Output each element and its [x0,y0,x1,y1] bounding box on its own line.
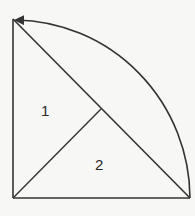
geometry-diagram: 1 2 [0,0,195,216]
bisector-line [13,109,101,198]
region-label-2: 2 [95,156,103,173]
region-label-1: 1 [41,102,49,119]
